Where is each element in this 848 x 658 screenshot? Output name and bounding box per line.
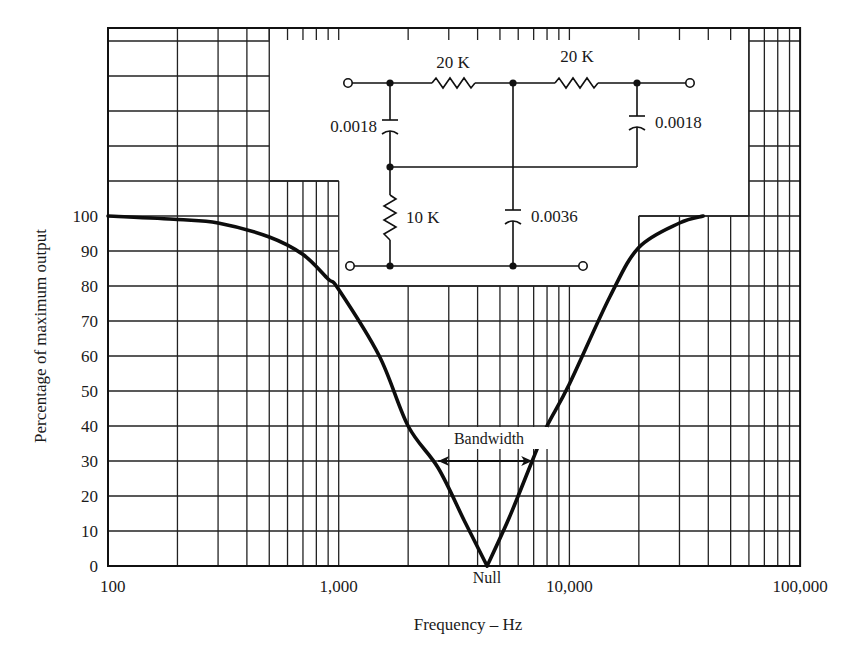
grid-lines xyxy=(108,28,800,566)
resistor-label-r2: 20 K xyxy=(560,47,594,66)
plot-frame xyxy=(108,28,800,566)
notch-filter-response-chart: 0102030405060708090100 1001,00010,000100… xyxy=(0,0,848,658)
x-tick-label: 10,000 xyxy=(546,577,593,596)
y-tick-label: 50 xyxy=(81,382,98,401)
x-axis-title: Frequency – Hz xyxy=(414,615,523,634)
capacitor-label-c1: 0.0018 xyxy=(330,117,377,136)
chart-canvas: 0102030405060708090100 1001,00010,000100… xyxy=(0,0,848,658)
y-tick-label: 70 xyxy=(81,312,98,331)
y-tick-label: 30 xyxy=(81,452,98,471)
plot-border xyxy=(108,28,800,566)
resistor-10k-icon xyxy=(384,195,396,240)
ground-in-terminal-icon xyxy=(346,262,354,270)
capacitor-label-c2: 0.0018 xyxy=(655,113,702,132)
junction-dot xyxy=(633,79,640,86)
junction-dot xyxy=(386,262,393,269)
x-tick-label: 100,000 xyxy=(772,577,827,596)
junction-dot xyxy=(509,79,516,86)
bandwidth-label: Bandwidth xyxy=(454,430,524,447)
y-axis-tick-labels: 0102030405060708090100 xyxy=(73,207,99,576)
x-tick-label: 1,000 xyxy=(320,577,358,596)
y-tick-label: 60 xyxy=(81,347,98,366)
output-terminal-icon xyxy=(686,79,694,87)
resistor-20k-2-icon xyxy=(555,78,598,88)
y-tick-label: 40 xyxy=(81,417,98,436)
resistor-label-r3: 10 K xyxy=(406,208,440,227)
y-tick-label: 10 xyxy=(81,522,98,541)
junction-dot xyxy=(509,262,516,269)
y-tick-label: 90 xyxy=(81,242,98,261)
resistor-20k-1-icon xyxy=(432,78,475,88)
junction-dot xyxy=(386,163,393,170)
capacitor-label-c3: 0.0036 xyxy=(531,207,578,226)
twin-t-circuit-inset: 20 K 20 K 10 K 0.0018 0.0018 0.0036 xyxy=(330,47,702,270)
x-tick-label: 100 xyxy=(100,577,126,596)
y-tick-label: 80 xyxy=(81,277,98,296)
input-terminal-icon xyxy=(344,79,352,87)
ground-out-terminal-icon xyxy=(579,262,587,270)
y-tick-label: 20 xyxy=(81,487,98,506)
y-tick-label: 100 xyxy=(73,207,99,226)
x-axis-tick-labels: 1001,00010,000100,000 xyxy=(100,577,828,596)
null-label: Null xyxy=(473,569,502,586)
y-tick-label: 0 xyxy=(90,557,99,576)
y-axis-title: Percentage of maximum output xyxy=(31,229,50,443)
null-annotation: Null xyxy=(473,569,502,586)
junction-dot xyxy=(386,79,393,86)
bandwidth-annotation: Bandwidth xyxy=(430,427,548,466)
resistor-label-r1: 20 K xyxy=(436,53,470,72)
